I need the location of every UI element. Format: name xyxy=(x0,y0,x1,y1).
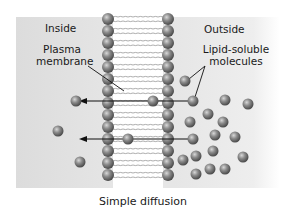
molecule-icon xyxy=(180,76,191,87)
molecule-icon xyxy=(188,134,199,145)
molecule-icon xyxy=(188,96,199,107)
molecule-icon xyxy=(178,155,189,166)
plasma-membrane-label: Plasma membrane xyxy=(36,44,88,67)
molecule-icon xyxy=(218,117,229,128)
molecule-icon xyxy=(71,96,82,107)
lipid-soluble-label-line2: molecules xyxy=(201,56,271,68)
lipid-soluble-molecules-label: Lipid-soluble molecules xyxy=(201,44,271,67)
molecule-icon xyxy=(191,151,202,162)
molecule-icon xyxy=(220,164,231,175)
molecule-icon xyxy=(203,109,214,120)
phospholipid-head-icon xyxy=(162,25,174,37)
plasma-membrane-label-line1: Plasma xyxy=(36,44,88,56)
phospholipid-head-icon xyxy=(102,145,114,157)
phospholipid-head-icon xyxy=(162,145,174,157)
phospholipid-head-icon xyxy=(162,13,174,25)
molecule-icon xyxy=(191,169,202,180)
phospholipid-head-icon xyxy=(162,61,174,73)
phospholipid-head-icon xyxy=(102,13,114,25)
molecule-icon xyxy=(205,164,216,175)
phospholipid-head-icon xyxy=(102,97,114,109)
molecule-icon xyxy=(148,96,159,107)
molecule-icon xyxy=(123,134,134,145)
molecule-icon xyxy=(243,99,254,110)
lipid-soluble-label-line1: Lipid-soluble xyxy=(201,44,271,56)
phospholipid-head-icon xyxy=(102,109,114,121)
phospholipid-head-icon xyxy=(162,169,174,181)
left-arrow-icon xyxy=(79,136,87,142)
phospholipid-head-icon xyxy=(102,25,114,37)
molecule-icon xyxy=(230,132,241,143)
molecule-icon xyxy=(238,152,249,163)
phospholipid-head-icon xyxy=(162,37,174,49)
phospholipid-head-icon xyxy=(102,121,114,133)
phospholipid-head-icon xyxy=(162,157,174,169)
molecule-icon xyxy=(75,157,86,168)
phospholipid-head-icon xyxy=(102,61,114,73)
phospholipid-head-icon xyxy=(162,73,174,85)
phospholipid-head-icon xyxy=(162,85,174,97)
phospholipid-head-icon xyxy=(102,85,114,97)
phospholipid-head-icon xyxy=(162,121,174,133)
inside-label: Inside xyxy=(45,23,76,35)
phospholipid-head-icon xyxy=(162,97,174,109)
phospholipid-head-icon xyxy=(102,37,114,49)
phospholipid-head-icon xyxy=(162,49,174,61)
figure-caption: Simple diffusion xyxy=(0,195,286,208)
molecule-icon xyxy=(208,146,219,157)
molecule-icon xyxy=(210,130,221,141)
phospholipid-head-icon xyxy=(102,49,114,61)
plasma-membrane-label-line2: membrane xyxy=(36,56,88,68)
phospholipid-head-icon xyxy=(102,169,114,181)
molecule-icon xyxy=(220,95,231,106)
outside-label: Outside xyxy=(204,24,245,36)
phospholipid-head-icon xyxy=(102,157,114,169)
molecule-icon xyxy=(185,117,196,128)
molecule-icon xyxy=(53,126,64,137)
phospholipid-head-icon xyxy=(162,109,174,121)
